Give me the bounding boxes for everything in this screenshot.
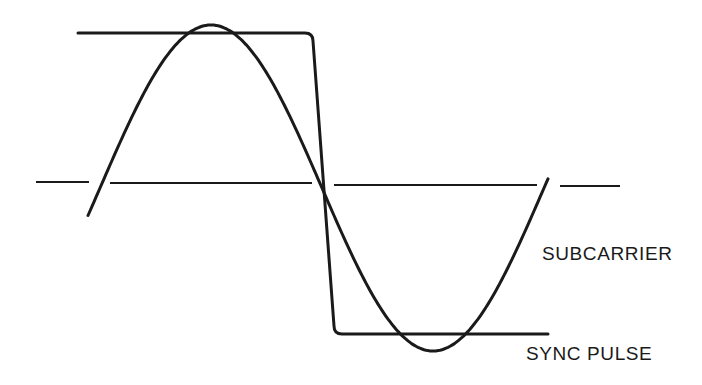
subcarrier-label: SUBCARRIER	[542, 244, 673, 263]
waveform-diagram	[0, 0, 702, 385]
subcarrier-sine-wave	[88, 25, 548, 351]
horizontal-axis	[36, 182, 620, 186]
sync-pulse-label: SYNC PULSE	[526, 344, 652, 363]
